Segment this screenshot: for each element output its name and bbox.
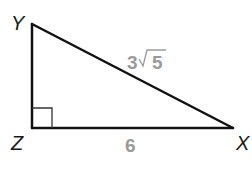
base-length-label: 6 <box>125 135 136 156</box>
hypotenuse-radicand: 5 <box>152 52 163 73</box>
vertex-label-x: X <box>235 132 250 154</box>
right-triangle-diagram: Y Z X 3 5 6 <box>0 0 252 169</box>
vertex-label-y: Y <box>11 12 26 34</box>
right-angle-marker-icon <box>32 108 52 128</box>
side-yx-hypotenuse <box>32 24 233 128</box>
hypotenuse-length-label: 3 5 <box>127 50 166 73</box>
hypotenuse-coefficient: 3 <box>127 52 138 73</box>
vertex-label-z: Z <box>10 132 24 154</box>
